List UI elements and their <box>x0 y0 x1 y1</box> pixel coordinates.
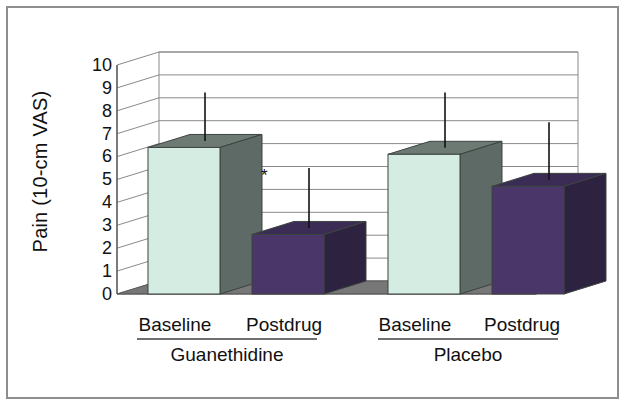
significance-asterisk: * <box>261 167 268 184</box>
group-label-guanethidine: Guanethidine <box>137 344 317 366</box>
x-label-guanethidine-postdrug: Postdrug <box>228 314 340 336</box>
group-underline-placebo <box>378 338 558 340</box>
chart-figure: Pain (10-cm VAS) 10 9 8 7 6 5 4 3 2 1 0 … <box>0 0 627 407</box>
x-label-placebo-postdrug: Postdrug <box>466 314 578 336</box>
group-label-placebo: Placebo <box>378 344 558 366</box>
group-underline-guanethidine <box>137 338 317 340</box>
x-label-guanethidine-baseline: Baseline <box>120 314 230 336</box>
x-label-placebo-baseline: Baseline <box>360 314 470 336</box>
